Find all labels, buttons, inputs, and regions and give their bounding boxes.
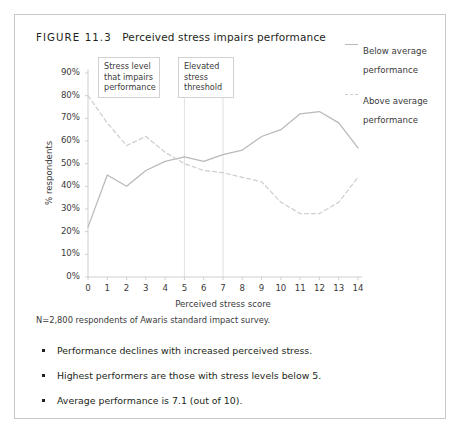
y-axis-tick-label: 60% bbox=[36, 135, 80, 145]
page-title: FIGURE 11.3 Perceived stress impairs per… bbox=[36, 31, 326, 43]
y-axis-tick-label: 70% bbox=[36, 112, 80, 122]
list-item: Performance declines with increased perc… bbox=[39, 345, 429, 357]
list-item: Average performance is 7.1 (out of 10). bbox=[39, 395, 429, 407]
x-axis-tick-label: 0 bbox=[78, 283, 98, 293]
y-axis-tick-label: 90% bbox=[36, 67, 80, 77]
list-item-text: Average performance is 7.1 (out of 10). bbox=[57, 395, 242, 406]
x-axis-tick-label: 6 bbox=[194, 283, 214, 293]
y-axis-tick-label: 30% bbox=[36, 203, 80, 213]
legend-item: Below average performance bbox=[345, 39, 445, 77]
legend-line-swatch bbox=[345, 94, 358, 95]
x-axis-tick-label: 12 bbox=[309, 283, 329, 293]
bullet-list: Performance declines with increased perc… bbox=[39, 345, 429, 421]
bullet-dot-icon bbox=[42, 349, 45, 352]
figure-number: FIGURE 11.3 bbox=[36, 32, 112, 43]
y-axis-tick-label: 10% bbox=[36, 248, 80, 258]
chart-footnote: N=2,800 respondents of Awaris standard i… bbox=[36, 315, 270, 325]
chart-legend: Below average performanceAbove average p… bbox=[345, 39, 445, 139]
figure-card: FIGURE 11.3 Perceived stress impairs per… bbox=[14, 14, 446, 419]
chart-annotation-elevated: Elevated stress threshold bbox=[178, 57, 234, 98]
chart-annotation-impair: Stress level that impairs performance bbox=[98, 57, 160, 98]
bullet-dot-icon bbox=[42, 399, 45, 402]
y-axis-title: % respondents bbox=[44, 141, 54, 205]
y-axis-tick-label: 20% bbox=[36, 226, 80, 236]
legend-item-label: Above average performance bbox=[363, 96, 428, 125]
y-axis-tick-label: 50% bbox=[36, 158, 80, 168]
x-axis-tick-label: 9 bbox=[252, 283, 272, 293]
x-axis-tick-label: 1 bbox=[97, 283, 117, 293]
list-item-text: Performance declines with increased perc… bbox=[57, 345, 312, 356]
bullet-dot-icon bbox=[42, 374, 45, 377]
list-item: Highest performers are those with stress… bbox=[39, 370, 429, 382]
x-axis-tick-label: 13 bbox=[329, 283, 349, 293]
legend-item-label: Below average performance bbox=[363, 46, 427, 75]
legend-item: Above average performance bbox=[345, 89, 445, 127]
x-axis-tick-label: 5 bbox=[174, 283, 194, 293]
x-axis-tick-label: 4 bbox=[155, 283, 175, 293]
legend-line-swatch bbox=[345, 44, 358, 45]
x-axis-title: Perceived stress score bbox=[88, 299, 358, 309]
x-axis-tick-label: 14 bbox=[348, 283, 368, 293]
x-axis-tick-label: 11 bbox=[290, 283, 310, 293]
x-axis-tick-label: 3 bbox=[136, 283, 156, 293]
x-axis-tick-label: 7 bbox=[213, 283, 233, 293]
y-axis-tick-label: 0% bbox=[36, 271, 80, 281]
x-axis-tick-label: 8 bbox=[232, 283, 252, 293]
list-item-text: Highest performers are those with stress… bbox=[57, 370, 321, 381]
figure-title-text: Perceived stress impairs performance bbox=[122, 31, 326, 43]
x-axis-tick-label: 2 bbox=[117, 283, 137, 293]
y-axis-tick-label: 80% bbox=[36, 90, 80, 100]
y-axis-tick-label: 40% bbox=[36, 180, 80, 190]
x-axis-tick-label: 10 bbox=[271, 283, 291, 293]
